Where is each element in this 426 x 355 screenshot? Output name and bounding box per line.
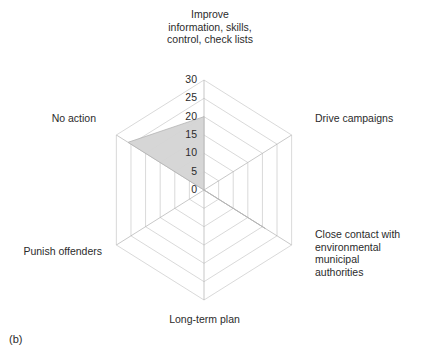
tick-label-15: 15 <box>171 129 197 140</box>
figure-caption: (b) <box>9 333 22 345</box>
radar-plot-area <box>0 0 426 355</box>
tick-label-10: 10 <box>171 147 197 158</box>
axis-label-no-action: No action <box>10 112 96 125</box>
tick-label-5: 5 <box>171 166 197 177</box>
axis-label-punish-offenders: Punish offenders <box>4 245 102 258</box>
tick-label-30: 30 <box>171 74 197 85</box>
axis-label-close-contact: Close contact with environmental municip… <box>315 228 426 278</box>
radar-chart-figure: Improve information, skills, control, ch… <box>0 0 426 355</box>
tick-label-20: 20 <box>171 111 197 122</box>
axis-label-long-term-plan: Long-term plan <box>142 313 267 326</box>
axis-label-drive-campaigns: Drive campaigns <box>315 112 425 125</box>
tick-label-0: 0 <box>171 184 197 195</box>
axis-label-improve-information: Improve information, skills, control, ch… <box>143 8 277 46</box>
tick-label-25: 25 <box>171 92 197 103</box>
